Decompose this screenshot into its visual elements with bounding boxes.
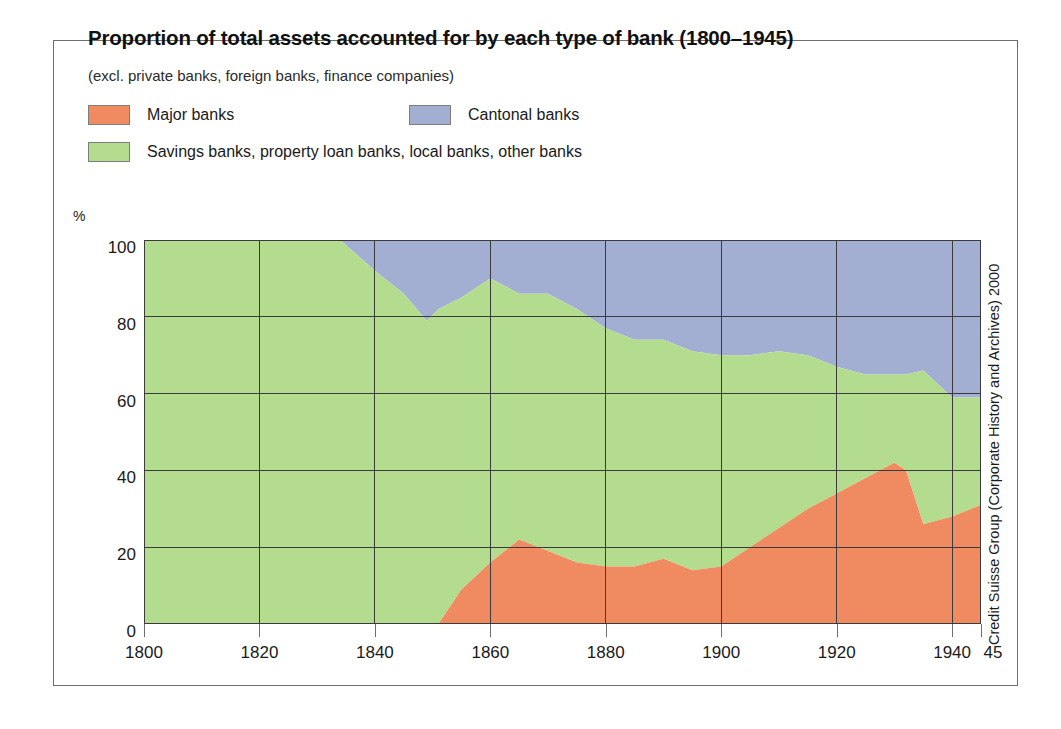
x-tick-label-1840: 1840: [356, 643, 394, 663]
legend-swatch-major-banks: [88, 105, 130, 125]
x-axis-tick-labels: 1800182018401860188019001920194045: [144, 637, 981, 667]
x-tick-mark-1800: [144, 624, 145, 637]
y-tick-label-80: 80: [76, 315, 136, 335]
y-tick-label-40: 40: [76, 468, 136, 488]
y-axis-unit-label: %: [73, 208, 85, 224]
y-tick-label-20: 20: [76, 545, 136, 565]
x-tick-mark-1920: [837, 624, 838, 637]
x-tick-label-1800: 1800: [125, 643, 163, 663]
x-tick-mark-1900: [721, 624, 722, 637]
x-tick-label-1900: 1900: [702, 643, 740, 663]
chart-title: Proportion of total assets accounted for…: [88, 26, 793, 50]
x-tick-mark-1880: [606, 624, 607, 637]
x-tick-mark-1840: [375, 624, 376, 637]
y-tick-label-100: 100: [76, 238, 136, 258]
x-tick-label-end-45: 45: [984, 643, 1003, 663]
x-tick-mark-1860: [490, 624, 491, 637]
x-tick-label-1920: 1920: [818, 643, 856, 663]
legend-item-major-banks: Major banks: [88, 105, 234, 125]
source-credit-note: Credit Suisse Group (Corporate History a…: [986, 225, 1002, 645]
x-tick-mark-1940: [952, 624, 953, 637]
x-tick-label-1940: 1940: [933, 643, 971, 663]
legend-label-savings-banks: Savings banks, property loan banks, loca…: [147, 143, 582, 161]
x-tick-label-1860: 1860: [471, 643, 509, 663]
y-tick-label-60: 60: [76, 392, 136, 412]
stacked-area-plot: [144, 240, 981, 624]
legend-item-cantonal-banks: Cantonal banks: [409, 105, 579, 125]
y-axis-tick-labels: 020406080100: [76, 240, 136, 624]
legend-swatch-cantonal-banks: [409, 105, 451, 125]
legend-swatch-savings-banks: [88, 142, 130, 162]
area-chart-svg: [144, 240, 981, 624]
legend-item-savings-banks: Savings banks, property loan banks, loca…: [88, 142, 582, 162]
x-tick-mark-end-1945: [981, 624, 982, 637]
plot-area-wrapper: [144, 240, 981, 624]
legend-label-cantonal-banks: Cantonal banks: [468, 106, 579, 124]
y-tick-label-0: 0: [76, 622, 136, 642]
legend-label-major-banks: Major banks: [147, 106, 234, 124]
x-tick-label-1820: 1820: [241, 643, 279, 663]
x-tick-mark-1820: [259, 624, 260, 637]
chart-subtitle: (excl. private banks, foreign banks, fin…: [88, 67, 454, 84]
x-tick-label-1880: 1880: [587, 643, 625, 663]
